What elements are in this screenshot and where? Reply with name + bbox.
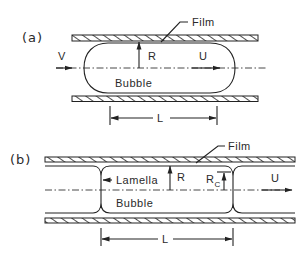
l-label: L xyxy=(157,112,164,124)
u-label: U xyxy=(199,50,207,62)
panel-b: (b) Lamella Bubble R RC U Film xyxy=(10,140,295,246)
r-label: R xyxy=(148,50,156,62)
bottom-tube-wall xyxy=(72,96,258,102)
film-contour-bottom xyxy=(45,203,295,213)
bubble-label: Bubble xyxy=(115,77,152,89)
bubble-flow-diagram: (a) V R U Bubble Film L (b) xyxy=(0,0,308,255)
panel-b-label: (b) xyxy=(10,152,31,167)
lamella-label: Lamella xyxy=(116,174,158,186)
rc-label-sub: C xyxy=(214,180,220,189)
top-tube-wall xyxy=(45,157,295,162)
panel-a: (a) V R U Bubble Film L xyxy=(22,16,268,125)
u-label: U xyxy=(271,172,279,184)
rc-label-main: R xyxy=(206,173,214,185)
v-label: V xyxy=(58,50,66,62)
l-label: L xyxy=(162,233,169,245)
rc-label: RC xyxy=(206,173,221,189)
r-label: R xyxy=(177,171,185,183)
bubble-label: Bubble xyxy=(116,197,153,209)
panel-a-label: (a) xyxy=(22,30,43,45)
bottom-tube-wall xyxy=(45,218,295,223)
film-label: Film xyxy=(228,140,251,152)
film-label: Film xyxy=(192,16,215,28)
